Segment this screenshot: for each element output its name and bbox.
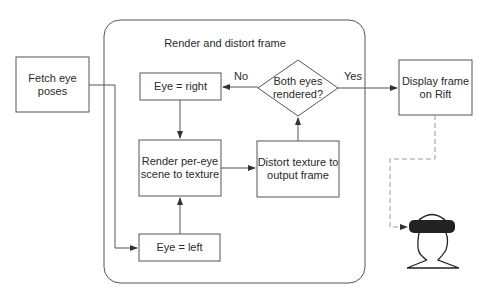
- edge-fetch-to-eye-left: [89, 85, 137, 248]
- eye-right-label: Eye = right: [140, 73, 221, 100]
- fetch-eye-poses-label: Fetch eye poses: [16, 57, 89, 112]
- edge-display-to-headset-dashed: [390, 115, 435, 227]
- fetch-line1: Fetch eye: [28, 72, 76, 85]
- display-frame-label: Display frame on Rift: [399, 60, 472, 115]
- decision-line2: rendered?: [273, 88, 323, 101]
- distort-line2: output frame: [267, 169, 329, 182]
- container-title: Render and distort frame: [150, 36, 300, 50]
- display-line1: Display frame: [402, 75, 469, 88]
- fetch-line2: poses: [38, 85, 67, 98]
- render-line1: Render per-eye: [142, 155, 218, 168]
- render-per-eye-label: Render per-eye scene to texture: [139, 140, 221, 196]
- decision-label: Both eyes rendered?: [258, 60, 338, 116]
- distort-texture-label: Distort texture to output frame: [257, 141, 339, 197]
- render-line2: scene to texture: [141, 168, 219, 181]
- edge-yes-label: Yes: [341, 69, 365, 83]
- distort-line1: Distort texture to: [258, 156, 339, 169]
- decision-line1: Both eyes: [274, 75, 323, 88]
- edge-no-label: No: [231, 69, 251, 83]
- display-line2: on Rift: [420, 88, 452, 101]
- user-head-headset-icon: [407, 215, 459, 269]
- eye-left-label: Eye = left: [139, 234, 220, 261]
